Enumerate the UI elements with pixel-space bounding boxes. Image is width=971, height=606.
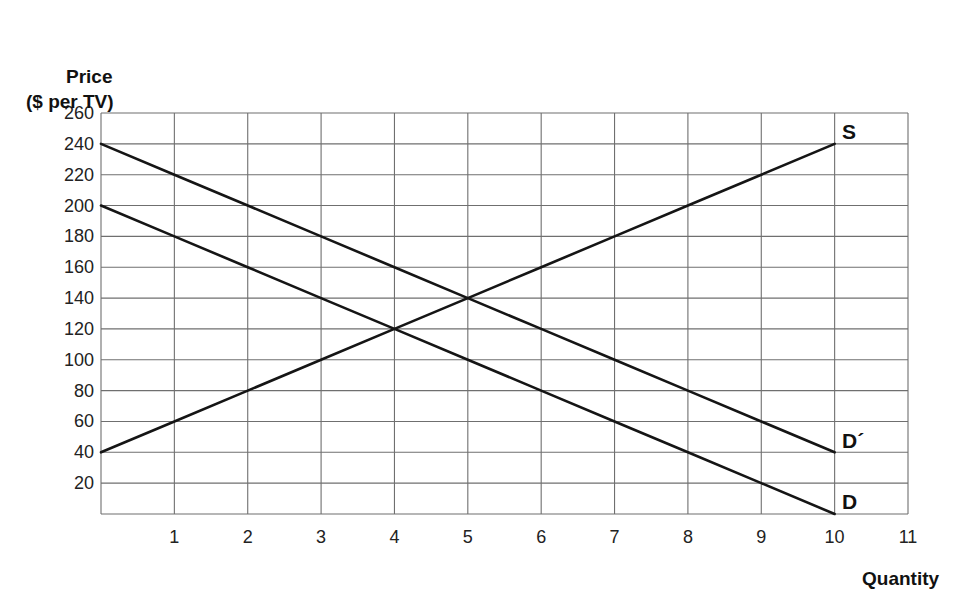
x-tick-label: 4 [389,527,399,547]
x-tick-label: 3 [316,527,326,547]
x-tick-label: 11 [899,527,918,547]
x-tick-label: 2 [243,527,253,547]
y-tick-label: 40 [74,442,94,462]
x-tick-label: 8 [683,527,693,547]
y-tick-label: 180 [64,226,94,246]
y-axis-label-line2: ($ per TV) [26,91,114,112]
x-tick-label: 9 [756,527,766,547]
shifted-demand-curve-label: D´ [842,429,864,452]
y-tick-label: 240 [64,134,94,154]
supply-demand-chart: 20406080100120140160180200220240260 1234… [0,0,971,606]
x-tick-label: 7 [610,527,620,547]
y-tick-label: 120 [64,319,94,339]
x-tick-label: 6 [536,527,546,547]
x-axis-ticks: 1234567891011 [169,527,917,547]
y-tick-label: 60 [74,411,94,431]
y-tick-label: 200 [64,196,94,216]
x-axis-label: Quantity [862,568,939,589]
y-tick-label: 80 [74,381,94,401]
y-axis-ticks: 20406080100120140160180200220240260 [64,103,94,493]
x-tick-label: 1 [169,527,179,547]
x-tick-label: 5 [463,527,473,547]
y-tick-label: 140 [64,288,94,308]
supply-curve-label: S [842,120,856,143]
demand-curve-label: D [842,490,857,513]
y-tick-label: 100 [64,350,94,370]
y-axis-label-line1: Price [66,66,112,87]
y-tick-label: 220 [64,165,94,185]
y-tick-label: 160 [64,257,94,277]
y-tick-label: 20 [74,473,94,493]
x-tick-label: 10 [825,527,845,547]
